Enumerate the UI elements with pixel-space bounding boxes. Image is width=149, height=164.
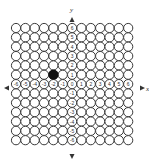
- grid-circle: [30, 98, 39, 107]
- grid-circle: [49, 136, 58, 145]
- grid-circle: [11, 126, 20, 135]
- grid-circle: [39, 108, 48, 117]
- grid-circle: [86, 70, 95, 79]
- grid-circle: [124, 23, 133, 32]
- grid-circle: [114, 23, 123, 32]
- grid-circle: [77, 42, 86, 51]
- grid-circle: [39, 23, 48, 32]
- grid-circle: [105, 98, 114, 107]
- grid-circle: [77, 23, 86, 32]
- grid-circle: [30, 136, 39, 145]
- grid-circle: [114, 89, 123, 98]
- grid-circle: [77, 61, 86, 70]
- grid-circle: [58, 42, 67, 51]
- grid-circle: [124, 89, 133, 98]
- grid-circle: [96, 108, 105, 117]
- y-tick-label: -3: [70, 109, 75, 115]
- grid-circle: [30, 70, 39, 79]
- grid-circle: [105, 23, 114, 32]
- grid-circle: [77, 117, 86, 126]
- grid-circle: [114, 108, 123, 117]
- x-tick-label: -2: [51, 81, 56, 87]
- x-tick-label: 5: [117, 81, 120, 87]
- y-tick-label: -1: [70, 90, 75, 96]
- grid-circle: [114, 136, 123, 145]
- grid-circle: [58, 126, 67, 135]
- grid-circle: [86, 23, 95, 32]
- x-tick-label: 1: [80, 81, 83, 87]
- grid-circle: [39, 117, 48, 126]
- grid-circle: [96, 70, 105, 79]
- grid-circle: [105, 42, 114, 51]
- grid-circle: [30, 51, 39, 60]
- grid-circle: [49, 126, 58, 135]
- grid-circle: [39, 51, 48, 60]
- grid-circle: [39, 126, 48, 135]
- grid-circle: [58, 70, 67, 79]
- grid-circle: [114, 126, 123, 135]
- grid-circle: [21, 42, 30, 51]
- grid-circle: [86, 98, 95, 107]
- grid-circle: [58, 98, 67, 107]
- grid-circle: [124, 33, 133, 42]
- grid-circle: [86, 108, 95, 117]
- grid-circle: [11, 42, 20, 51]
- grid-circle: [105, 108, 114, 117]
- x-tick-label: 4: [108, 81, 111, 87]
- grid-circle: [105, 126, 114, 135]
- grid-circle: [30, 89, 39, 98]
- grid-circle: [30, 126, 39, 135]
- coordinate-grid: y x -6-5-4-3-2-10123456654321-1-2-3-4-5-…: [0, 0, 149, 164]
- grid-circle: [21, 136, 30, 145]
- x-tick-label: 3: [99, 81, 102, 87]
- grid-circle: [77, 136, 86, 145]
- grid-circle: [30, 108, 39, 117]
- grid-circle: [11, 108, 20, 117]
- grid-circle: [49, 61, 58, 70]
- grid-circle: [11, 61, 20, 70]
- grid-circle: [11, 98, 20, 107]
- grid-circle: [77, 126, 86, 135]
- grid-circle: [114, 33, 123, 42]
- grid-circle: [96, 98, 105, 107]
- x-tick-label: -3: [42, 81, 47, 87]
- y-tick-label: 5: [71, 34, 74, 40]
- x-tick-label: -4: [32, 81, 37, 87]
- y-axis-down-arrow-icon: [70, 154, 75, 159]
- grid-circle: [58, 108, 67, 117]
- y-tick-label: -4: [70, 119, 75, 125]
- grid-circle: [39, 98, 48, 107]
- x-axis-left-arrow-icon: [4, 86, 9, 91]
- grid-circle: [114, 51, 123, 60]
- grid-circle: [96, 61, 105, 70]
- grid-circle: [124, 117, 133, 126]
- grid-circle: [21, 33, 30, 42]
- grid-circle: [49, 98, 58, 107]
- grid-circle: [86, 117, 95, 126]
- grid-circle: [77, 51, 86, 60]
- grid-circle: [21, 117, 30, 126]
- grid-circle: [86, 42, 95, 51]
- grid-circle: [58, 61, 67, 70]
- grid-circle: [11, 23, 20, 32]
- y-tick-label: -2: [70, 100, 75, 106]
- grid-circle: [86, 51, 95, 60]
- grid-circle: [21, 98, 30, 107]
- x-axis-label: x: [145, 85, 149, 93]
- grid-circle: [124, 126, 133, 135]
- grid-circle: [114, 70, 123, 79]
- grid-circle: [124, 51, 133, 60]
- grid-circle: [49, 23, 58, 32]
- grid-circle: [77, 33, 86, 42]
- grid-circle: [21, 51, 30, 60]
- grid-circle: [49, 42, 58, 51]
- grid-circle: [21, 61, 30, 70]
- grid-circle: [96, 117, 105, 126]
- y-tick-label: 3: [71, 53, 74, 59]
- grid-circle: [39, 136, 48, 145]
- grid-circle: [96, 51, 105, 60]
- grid-circle: [21, 89, 30, 98]
- grid-circle: [11, 33, 20, 42]
- grid-circle: [96, 33, 105, 42]
- grid-circle: [30, 117, 39, 126]
